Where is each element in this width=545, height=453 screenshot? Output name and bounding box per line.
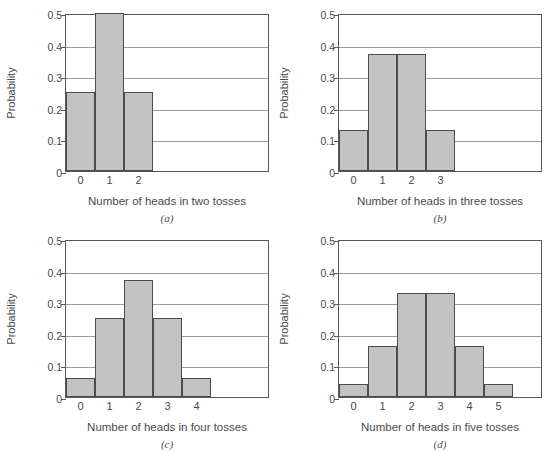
bar: [339, 384, 368, 397]
panel-c-y-tick-label: 0.3: [47, 299, 62, 310]
panel-b-y-tick-label: 0.2: [320, 105, 335, 116]
bar: [339, 130, 368, 171]
panel-b-y-tick-label: 0.1: [320, 136, 335, 147]
panel-d: Probability 00.10.20.30.40.5 012345 Numb…: [273, 226, 545, 453]
panel-a-y-axis-label: Probability: [4, 14, 18, 172]
panel-a-x-tick-label: 2: [135, 175, 141, 186]
panel-b-x-tick-label: 3: [437, 175, 443, 186]
bar: [95, 13, 124, 171]
bar: [397, 54, 426, 171]
panel-d-y-tick-label: 0.1: [320, 362, 335, 373]
bar: [153, 318, 182, 397]
panel-d-bars: 012345: [339, 241, 541, 397]
bar: [426, 130, 455, 171]
binomial-distribution-figure: Probability 00.10.20.30.40.5 012 Number …: [0, 0, 545, 453]
panel-d-x-tick-label: 0: [350, 401, 356, 412]
panel-d-y-tick-label: 0.4: [320, 267, 335, 278]
panel-c-bars: 01234: [66, 241, 268, 397]
panel-a-y-axis-label-text: Probability: [5, 67, 17, 118]
panel-c-x-tick-label: 1: [106, 401, 112, 412]
bar: [124, 280, 153, 397]
panel-b-caption: (b): [338, 212, 542, 224]
panel-c-y-tick-label: 0.1: [47, 362, 62, 373]
bar: [455, 346, 484, 397]
bar: [368, 346, 397, 397]
panel-b-x-tick-label: 1: [379, 175, 385, 186]
bar: [182, 378, 211, 397]
panel-a-x-tick-label: 0: [77, 175, 83, 186]
panel-a-plot-area: 00.10.20.30.40.5 012: [65, 14, 269, 172]
bar: [95, 318, 124, 397]
panel-b-plot-area: 00.10.20.30.40.5 0123: [338, 14, 542, 172]
panel-c-y-axis-label: Probability: [4, 240, 18, 398]
panel-b-y-tick-label: 0.5: [320, 10, 335, 21]
panel-a-y-tick-label: 0.5: [47, 10, 62, 21]
panel-c-y-tick-label: 0.2: [47, 331, 62, 342]
panel-b-y-axis-label: Probability: [277, 14, 291, 172]
panel-c-caption: (c): [65, 438, 269, 450]
panel-a-x-tick-label: 1: [106, 175, 112, 186]
panel-c: Probability 00.10.20.30.40.5 01234 Numbe…: [0, 226, 272, 453]
bar: [66, 378, 95, 397]
panel-d-y-axis-label-text: Probability: [278, 293, 290, 344]
panel-d-y-tick-label: 0.5: [320, 236, 335, 247]
panel-d-y-tick-label: 0.2: [320, 331, 335, 342]
panel-d-x-tick-label: 5: [495, 401, 501, 412]
panel-d-y-axis-label: Probability: [277, 240, 291, 398]
panel-a-y-tick-label: 0.1: [47, 136, 62, 147]
panel-c-x-tick-label: 2: [135, 401, 141, 412]
bar: [124, 92, 153, 171]
panel-a-y-tick-label: 0.2: [47, 105, 62, 116]
panel-c-plot-area: 00.10.20.30.40.5 01234: [65, 240, 269, 398]
bar: [484, 384, 513, 397]
panel-d-x-tick-label: 2: [408, 401, 414, 412]
panel-a-caption: (a): [65, 212, 269, 224]
panel-d-x-tick-label: 3: [437, 401, 443, 412]
panel-d-y-tick-label: 0.3: [320, 299, 335, 310]
panel-c-y-tick-label: 0.5: [47, 236, 62, 247]
panel-b: Probability 00.10.20.30.40.5 0123 Number…: [273, 0, 545, 228]
panel-a-y-tick-label: 0.4: [47, 41, 62, 52]
panel-c-x-tick-label: 3: [164, 401, 170, 412]
bar: [368, 54, 397, 171]
panel-a-bars: 012: [66, 15, 268, 171]
panel-c-y-axis-label-text: Probability: [5, 293, 17, 344]
panel-b-bars: 0123: [339, 15, 541, 171]
panel-b-x-axis-label: Number of heads in three tosses: [338, 195, 542, 207]
bar: [66, 92, 95, 171]
panel-d-x-axis-label: Number of heads in five tosses: [338, 421, 542, 433]
panel-b-x-tick-label: 2: [408, 175, 414, 186]
panel-c-x-tick-label: 0: [77, 401, 83, 412]
panel-a-y-tick-label: 0.3: [47, 73, 62, 84]
bar: [426, 293, 455, 397]
panel-b-y-tick-label: 0.3: [320, 73, 335, 84]
y-tick-mark: [334, 399, 339, 400]
panel-c-x-tick-label: 4: [193, 401, 199, 412]
panel-b-x-tick-label: 0: [350, 175, 356, 186]
panel-c-y-tick-label: 0.4: [47, 267, 62, 278]
y-tick-mark: [61, 173, 66, 174]
y-tick-mark: [334, 173, 339, 174]
panel-b-y-axis-label-text: Probability: [278, 67, 290, 118]
panel-d-caption: (d): [338, 438, 542, 450]
panel-c-x-axis-label: Number of heads in four tosses: [65, 421, 269, 433]
bar: [397, 293, 426, 397]
panel-d-x-tick-label: 4: [466, 401, 472, 412]
panel-a: Probability 00.10.20.30.40.5 012 Number …: [0, 0, 272, 228]
panel-b-y-tick-label: 0.4: [320, 41, 335, 52]
panel-d-x-tick-label: 1: [379, 401, 385, 412]
panel-d-plot-area: 00.10.20.30.40.5 012345: [338, 240, 542, 398]
y-tick-mark: [61, 399, 66, 400]
panel-a-x-axis-label: Number of heads in two tosses: [65, 195, 269, 207]
